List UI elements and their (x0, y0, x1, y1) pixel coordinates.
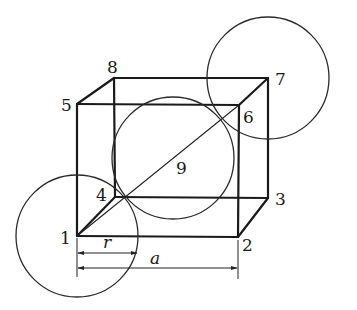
edge-4-3 (115, 197, 268, 198)
vertex-labels: 1 2 3 4 5 6 7 8 9 (60, 57, 286, 255)
edge-6-7 (239, 78, 268, 105)
edge-8-4 (114, 78, 115, 197)
center-label-9: 9 (176, 158, 187, 178)
edge-2-3 (238, 198, 268, 237)
vertex-label-4: 4 (96, 185, 107, 205)
vertex-label-7: 7 (275, 69, 286, 89)
dimension-label-r: r (103, 232, 112, 252)
vertex-label-3: 3 (275, 189, 286, 209)
vertex-label-5: 5 (61, 95, 72, 115)
bcc-unit-cell-diagram: 1 2 3 4 5 6 7 8 9 r a (0, 0, 357, 310)
vertex-label-6: 6 (243, 107, 254, 127)
vertex-label-2: 2 (242, 235, 253, 255)
vertex-label-8: 8 (107, 57, 118, 77)
vertex-label-1: 1 (60, 228, 71, 248)
edge-1-2 (77, 236, 238, 237)
body-diagonal-1-6 (77, 105, 239, 236)
edge-5-8 (77, 78, 114, 104)
edge-6-5 (77, 104, 239, 105)
edge-2-6 (238, 105, 239, 237)
dimension-label-a: a (150, 248, 160, 268)
